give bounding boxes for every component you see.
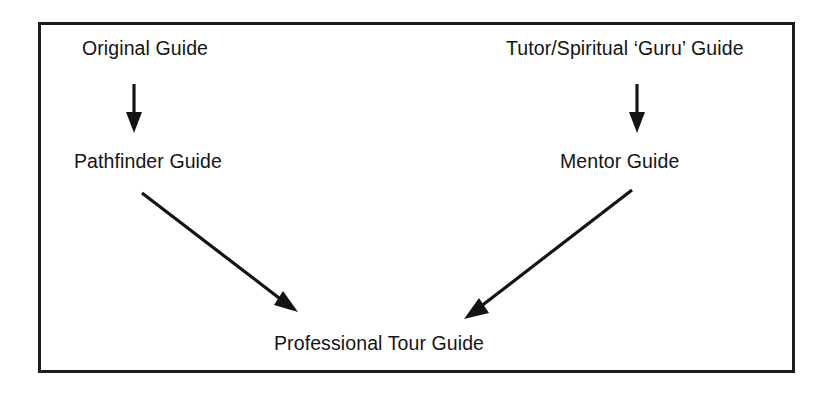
- node-pathfinder-guide: Pathfinder Guide: [74, 151, 222, 172]
- diagram-canvas: Original Guide Tutor/Spiritual ‘Guru’ Gu…: [0, 0, 826, 394]
- node-mentor-guide: Mentor Guide: [560, 151, 679, 172]
- node-professional-tour-guide: Professional Tour Guide: [274, 333, 484, 354]
- node-original-guide: Original Guide: [82, 38, 208, 59]
- diagram-frame: [38, 22, 795, 373]
- node-tutor-spiritual-guru-guide: Tutor/Spiritual ‘Guru’ Guide: [506, 38, 744, 59]
